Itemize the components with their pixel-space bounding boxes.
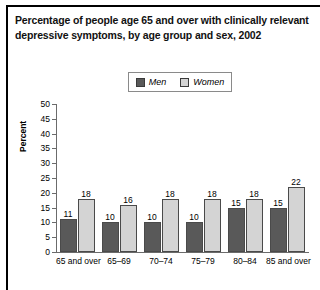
legend-item-men: Men — [136, 77, 167, 87]
bar-value-label: 18 — [165, 190, 174, 199]
y-tick-mark — [52, 134, 56, 135]
legend-label-women: Women — [193, 77, 224, 87]
y-tick-label: 30 — [36, 159, 50, 168]
legend-item-women: Women — [180, 77, 224, 87]
y-axis-title: Percent — [18, 121, 28, 152]
chart-title: Percentage of people age 65 and over wit… — [15, 13, 311, 42]
bar-group: 1522 — [270, 104, 305, 252]
y-tick-mark — [52, 237, 56, 238]
bar-value-label: 10 — [147, 213, 156, 222]
y-tick-mark — [52, 104, 56, 105]
y-tick-mark — [52, 193, 56, 194]
bar-men: 15 — [228, 208, 245, 252]
legend-label-men: Men — [149, 77, 167, 87]
bar-group: 1016 — [102, 104, 137, 252]
bar-women: 18 — [162, 199, 179, 252]
y-tick-label: 45 — [36, 115, 50, 124]
bar-value-label: 10 — [105, 213, 114, 222]
bar-women: 18 — [246, 199, 263, 252]
legend-swatch-women-icon — [180, 78, 189, 87]
bar-group: 1018 — [186, 104, 221, 252]
x-axis-label: 70–74 — [140, 256, 182, 266]
bar-value-label: 10 — [189, 213, 198, 222]
plot-area: 0510152025303540455011181016101810181518… — [56, 104, 308, 252]
y-tick-label: 50 — [36, 100, 50, 109]
y-tick-label: 15 — [36, 204, 50, 213]
x-axis-label: 65 and over — [56, 256, 98, 266]
y-tick-mark — [52, 208, 56, 209]
y-tick-mark — [52, 163, 56, 164]
bar-value-label: 15 — [273, 199, 282, 208]
x-axis-label: 85 and over — [266, 256, 308, 266]
bar-group: 1018 — [144, 104, 179, 252]
y-tick-label: 0 — [36, 248, 50, 257]
y-tick-mark — [52, 148, 56, 149]
y-tick-label: 40 — [36, 130, 50, 139]
bar-value-label: 18 — [249, 190, 258, 199]
y-tick-label: 10 — [36, 218, 50, 227]
bar-value-label: 22 — [291, 178, 300, 187]
left-rule — [6, 5, 8, 290]
legend-swatch-men-icon — [136, 78, 145, 87]
y-tick-label: 35 — [36, 144, 50, 153]
x-axis-label: 75–79 — [182, 256, 224, 266]
bar-group: 1118 — [60, 104, 95, 252]
y-tick-mark — [52, 252, 56, 253]
bar-value-label: 15 — [231, 199, 240, 208]
bar-group: 1518 — [228, 104, 263, 252]
bar-women: 16 — [120, 205, 137, 252]
chart-legend: Men Women — [128, 72, 232, 92]
y-tick-mark — [52, 178, 56, 179]
figure-container: Percentage of people age 65 and over wit… — [0, 0, 320, 290]
x-axis-label: 65–69 — [98, 256, 140, 266]
bar-women: 18 — [204, 199, 221, 252]
bar-women: 18 — [78, 199, 95, 252]
y-tick-label: 20 — [36, 189, 50, 198]
y-tick-mark — [52, 119, 56, 120]
y-tick-label: 5 — [36, 233, 50, 242]
x-axis-label: 80–84 — [224, 256, 266, 266]
bar-men: 11 — [60, 219, 77, 252]
y-tick-mark — [52, 222, 56, 223]
x-axis-line — [56, 252, 309, 253]
bar-value-label: 18 — [81, 190, 90, 199]
bar-men: 10 — [144, 222, 161, 252]
y-tick-label: 25 — [36, 174, 50, 183]
bar-value-label: 18 — [207, 190, 216, 199]
bar-women: 22 — [288, 187, 305, 252]
bar-value-label: 16 — [123, 196, 132, 205]
top-rule — [6, 5, 320, 7]
bar-value-label: 11 — [64, 210, 73, 219]
bar-men: 15 — [270, 208, 287, 252]
bar-men: 10 — [102, 222, 119, 252]
bar-men: 10 — [186, 222, 203, 252]
